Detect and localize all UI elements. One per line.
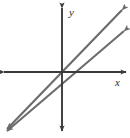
y-axis-label: y [68, 6, 74, 18]
parallel-line-upper [7, 10, 122, 129]
x-axis-label: x [114, 76, 120, 88]
coordinate-plane-figure: y x [0, 0, 130, 138]
graph-canvas: y x [0, 0, 130, 138]
parallel-line-lower [7, 31, 124, 131]
